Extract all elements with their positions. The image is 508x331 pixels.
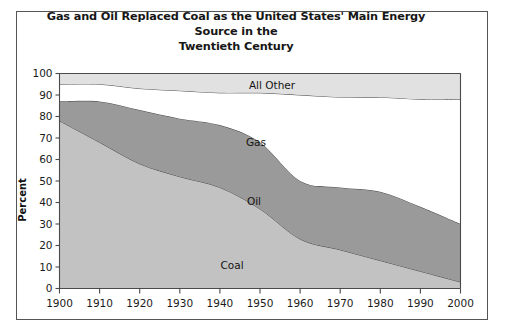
x-tick-label: 2000 [447, 297, 474, 309]
plot-area: 0102030405060708090100 19001910192019301… [0, 0, 508, 331]
y-tick-label: 0 [46, 282, 53, 294]
y-axis-ticks: 0102030405060708090100 [32, 67, 59, 294]
x-tick-label: 1980 [367, 297, 394, 309]
series-label-gas: Gas [246, 136, 266, 148]
x-tick-label: 1930 [166, 297, 193, 309]
x-tick-label: 1940 [207, 297, 234, 309]
series-label-oil: Oil [247, 195, 261, 207]
y-tick-label: 10 [39, 261, 52, 273]
x-tick-label: 1900 [46, 297, 73, 309]
x-tick-label: 1920 [126, 297, 153, 309]
x-tick-label: 1950 [247, 297, 274, 309]
y-axis-title: Percent [17, 178, 28, 222]
y-tick-label: 100 [32, 67, 52, 79]
x-tick-label: 1910 [86, 297, 113, 309]
series-label-coal: Coal [220, 259, 243, 271]
x-tick-label: 1970 [327, 297, 354, 309]
area-chart-svg: 0102030405060708090100 19001910192019301… [0, 0, 508, 331]
y-tick-label: 90 [39, 89, 52, 101]
stacked-area-bands [60, 74, 461, 289]
x-axis-ticks: 1900191019201930194019501960197019801990… [46, 289, 474, 309]
y-tick-label: 30 [39, 218, 52, 230]
y-tick-label: 70 [39, 132, 52, 144]
y-tick-label: 40 [39, 196, 52, 208]
series-label-all-other: All Other [249, 79, 296, 91]
x-tick-label: 1960 [287, 297, 314, 309]
y-tick-label: 80 [39, 110, 52, 122]
x-tick-label: 1990 [407, 297, 434, 309]
chart-page: Gas and Oil Replaced Coal as the United … [0, 0, 508, 331]
y-tick-label: 50 [39, 175, 52, 187]
y-tick-label: 60 [39, 153, 52, 165]
y-tick-label: 20 [39, 239, 52, 251]
